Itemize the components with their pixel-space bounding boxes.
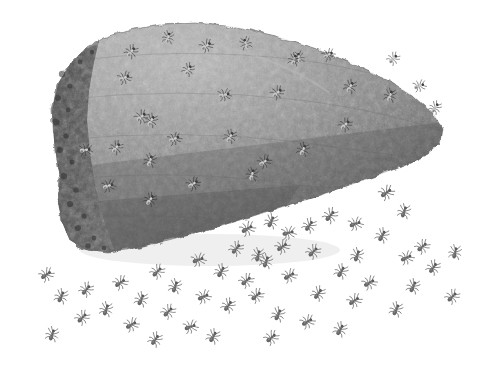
ant-mound-illustration (0, 0, 490, 369)
illustration-canvas: Ant mound with worker ants Grayscale nat… (0, 0, 490, 369)
